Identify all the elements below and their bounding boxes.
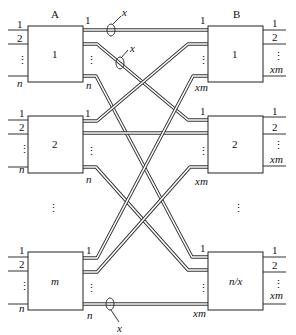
out-label: 1 [272,17,278,29]
in-label: n [19,163,25,175]
right-switch-1: 1 1 ⋮ xm 1 2 ⋮ xm [194,14,286,93]
in-label: 2 [17,32,23,44]
right-switch-1-label: 1 [232,48,238,60]
in-label: xm [194,175,208,187]
in-label: n [19,302,25,314]
trunk-lines [83,30,208,304]
left-switch-m-label: m [51,275,59,287]
out-label: 1 [272,105,278,117]
out-label: xm [269,153,283,165]
right-column-ellipsis: ⋮ [233,202,244,214]
out-label: 1 [85,14,91,26]
out-ellipsis: ⋮ [86,54,97,66]
in-ellipsis: ⋮ [19,143,30,155]
out-ellipsis: ⋮ [86,282,97,294]
left-switch-2: 2 1 2 ⋮ n 1 ⋮ n [8,107,97,185]
out-label: 1 [85,107,91,119]
right-switch-2: 2 1 ⋮ xm 1 2 ⋮ xm [194,105,286,187]
bundle-label-x-3: x [116,322,122,334]
left-switch-1-label: 1 [52,48,58,60]
right-switch-n-over-x: n/x 1 ⋮ xm 1 2 ⋮ xm [192,242,286,319]
in-label: 1 [19,107,25,119]
out-ellipsis: ⋮ [86,145,97,157]
left-column-ellipsis: ⋮ [48,202,59,214]
right-switch-2-label: 2 [232,138,238,150]
bundle-marker-mid: x [116,42,135,69]
in-ellipsis: ⋮ [198,282,209,294]
in-label: n [17,77,23,89]
out-ellipsis: ⋮ [273,139,284,151]
stage-a-title: A [51,8,59,20]
out-label: n [86,173,92,185]
out-label: n [87,309,93,321]
in-label: 1 [17,18,23,30]
out-label: xm [269,289,283,301]
left-switch-1: 1 1 2 ⋮ n 1 ⋮ n [8,14,97,91]
left-switch-m: m 1 2 ⋮ n 1 ⋮ n [8,244,97,321]
in-ellipsis: ⋮ [198,54,209,66]
in-label: 1 [200,242,206,254]
out-label: 2 [272,121,278,133]
in-label: 1 [200,105,206,117]
out-label: xm [269,63,283,75]
in-label: 1 [19,244,25,256]
in-label: xm [192,307,206,319]
out-label: 1 [86,244,92,256]
in-label: 1 [200,14,206,26]
in-ellipsis: ⋮ [198,145,209,157]
switching-network-diagram: x x x A B 1 1 2 ⋮ n 1 ⋮ n 2 1 2 ⋮ n [0,0,296,335]
in-label: 2 [19,121,25,133]
in-ellipsis: ⋮ [17,54,28,66]
out-label: 2 [272,31,278,43]
bundle-label-x-2: x [129,42,135,54]
in-label: 2 [19,258,25,270]
right-switch-n-over-x-label: n/x [229,275,243,287]
stage-b-title: B [233,8,240,20]
in-ellipsis: ⋮ [19,280,30,292]
left-switch-2-label: 2 [52,138,58,150]
in-label: xm [194,81,208,93]
bundle-label-x-1: x [121,6,127,18]
out-label: 2 [272,259,278,271]
out-label: n [86,79,92,91]
out-ellipsis: ⋮ [273,50,284,62]
out-label: 1 [272,244,278,256]
